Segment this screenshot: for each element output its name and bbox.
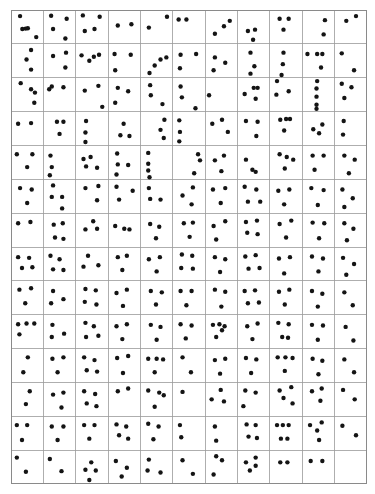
data-point bbox=[125, 466, 129, 470]
grid-cell bbox=[149, 323, 163, 342]
data-point bbox=[251, 38, 255, 42]
data-point bbox=[286, 423, 290, 427]
data-point bbox=[283, 355, 287, 359]
data-point bbox=[189, 323, 193, 327]
grid-cell bbox=[310, 323, 325, 342]
data-point bbox=[57, 132, 61, 136]
data-point bbox=[287, 187, 291, 191]
data-point bbox=[222, 153, 226, 157]
data-point bbox=[310, 289, 314, 293]
data-point bbox=[213, 255, 217, 259]
data-point bbox=[57, 257, 61, 261]
data-point bbox=[162, 136, 166, 140]
grid-cell bbox=[178, 52, 199, 71]
data-point bbox=[120, 268, 124, 272]
data-point bbox=[158, 197, 162, 201]
data-point bbox=[277, 17, 281, 21]
data-point bbox=[82, 423, 86, 427]
data-point bbox=[281, 423, 285, 427]
grid-cell bbox=[244, 356, 259, 375]
data-point bbox=[342, 153, 346, 157]
data-point bbox=[284, 117, 288, 121]
data-point bbox=[214, 335, 218, 339]
data-point bbox=[319, 65, 323, 69]
data-point bbox=[220, 328, 224, 332]
data-point bbox=[59, 469, 63, 473]
data-point bbox=[50, 323, 54, 327]
data-point bbox=[316, 304, 320, 308]
data-point bbox=[30, 265, 34, 269]
data-point bbox=[218, 371, 222, 375]
data-point bbox=[342, 96, 346, 100]
grid-cell bbox=[48, 254, 65, 273]
data-point bbox=[179, 435, 183, 439]
grid-cell bbox=[241, 388, 258, 408]
grid-cell bbox=[83, 321, 100, 340]
grid-cell bbox=[81, 13, 102, 33]
data-point bbox=[60, 195, 64, 199]
data-point bbox=[95, 166, 99, 170]
data-point bbox=[344, 273, 348, 277]
data-point bbox=[214, 438, 218, 442]
data-point bbox=[248, 50, 252, 54]
data-point bbox=[48, 457, 52, 461]
data-point bbox=[318, 399, 322, 403]
grid-cell bbox=[21, 355, 30, 374]
data-point bbox=[50, 424, 54, 428]
data-point bbox=[29, 48, 33, 52]
data-point bbox=[64, 17, 68, 21]
data-point bbox=[253, 253, 257, 257]
data-point bbox=[49, 14, 53, 18]
grid-cell bbox=[310, 220, 326, 240]
data-point bbox=[211, 472, 215, 476]
data-point bbox=[305, 52, 309, 56]
data-point bbox=[178, 130, 182, 134]
data-point bbox=[125, 322, 129, 326]
data-point bbox=[242, 92, 246, 96]
data-point bbox=[211, 187, 215, 191]
data-point bbox=[316, 203, 320, 207]
data-point bbox=[146, 388, 150, 392]
grid-cell bbox=[213, 357, 228, 376]
data-point bbox=[191, 472, 195, 476]
data-point bbox=[48, 254, 52, 258]
grid-cell bbox=[116, 254, 129, 273]
data-point bbox=[342, 290, 346, 294]
data-point bbox=[193, 106, 197, 110]
data-point bbox=[354, 14, 358, 18]
data-point bbox=[147, 71, 151, 75]
data-point bbox=[154, 302, 158, 306]
data-point bbox=[242, 289, 246, 293]
data-point bbox=[126, 354, 130, 358]
data-point bbox=[113, 101, 117, 105]
data-point bbox=[285, 436, 289, 440]
grid-cell bbox=[340, 51, 357, 72]
data-point bbox=[147, 175, 151, 179]
data-point bbox=[178, 423, 182, 427]
grid-cell bbox=[248, 50, 256, 75]
data-point bbox=[79, 53, 83, 57]
data-point bbox=[189, 289, 193, 293]
data-point bbox=[214, 237, 218, 241]
grid-cell bbox=[245, 321, 260, 341]
data-point bbox=[253, 97, 257, 101]
data-point bbox=[18, 14, 22, 18]
data-point bbox=[28, 220, 32, 224]
data-point bbox=[250, 337, 254, 341]
data-point bbox=[88, 155, 92, 159]
grid-cell bbox=[113, 224, 132, 232]
data-point bbox=[83, 140, 87, 144]
data-point bbox=[20, 438, 24, 442]
data-point bbox=[243, 254, 247, 258]
data-point bbox=[223, 357, 227, 361]
data-point bbox=[254, 134, 258, 138]
data-point bbox=[245, 231, 249, 235]
data-point bbox=[316, 372, 320, 376]
grid-cell bbox=[243, 253, 262, 271]
data-point bbox=[341, 256, 345, 260]
data-point bbox=[310, 389, 314, 393]
data-point bbox=[320, 52, 324, 56]
data-point bbox=[320, 459, 324, 463]
grid-cell bbox=[15, 152, 35, 169]
data-point bbox=[342, 357, 346, 361]
